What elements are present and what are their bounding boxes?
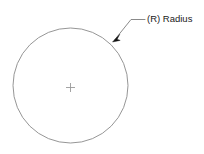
leader-arrowhead (113, 34, 121, 42)
cad-diagram-canvas: (R) Radius (0, 0, 204, 154)
radius-label: (R) Radius (147, 13, 193, 24)
leader-line (115, 20, 146, 41)
center-plus-mark (66, 83, 75, 92)
diagram-svg: (R) Radius (0, 0, 204, 154)
